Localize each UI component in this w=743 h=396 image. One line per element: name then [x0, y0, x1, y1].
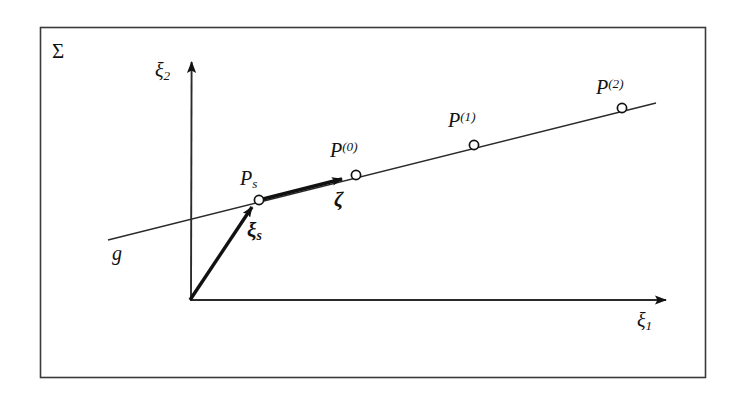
vector-label-xi-s-subscript: s [256, 228, 261, 243]
vector-label-xi-s: ξs [247, 220, 262, 241]
axis-y-label-symbol: ξ [155, 59, 164, 81]
point-label-p1-superscript: (1) [460, 109, 475, 124]
axis-y-label-subscript: 2 [164, 68, 171, 83]
vector-zeta [259, 179, 342, 200]
figure-vector-graphics [0, 0, 743, 396]
axis-x-label: ξ1 [637, 310, 652, 330]
axis-x-label-subscript: 1 [646, 318, 653, 333]
vector-xi-s [190, 207, 252, 300]
line-label-g: g [112, 243, 122, 263]
axis-x-label-symbol: ξ [637, 309, 646, 331]
point-label-ps-symbol: P [240, 167, 252, 189]
figure-canvas: Σ ξ2 ξ1 g Ps P(0) P(1) P(2) ξs ζ [0, 0, 743, 396]
point-label-p0-symbol: P [330, 139, 342, 161]
point-marker-p2 [617, 103, 626, 112]
point-label-p1: P(1) [448, 110, 476, 130]
axis-y-line [191, 62, 192, 300]
point-label-p2-superscript: (2) [608, 76, 623, 91]
axis-y-label: ξ2 [155, 60, 170, 80]
point-label-p0: P(0) [330, 140, 358, 160]
point-label-p1-symbol: P [448, 109, 460, 131]
point-label-ps: Ps [240, 168, 257, 188]
point-label-p2-symbol: P [596, 76, 608, 98]
point-marker-p0 [351, 170, 360, 179]
point-label-ps-subscript: s [252, 176, 257, 191]
point-marker-p1 [469, 140, 478, 149]
point-marker-ps [254, 195, 263, 204]
line-g [108, 103, 656, 240]
point-label-p0-superscript: (0) [342, 139, 357, 154]
vector-label-zeta: ζ [334, 189, 343, 210]
domain-label-sigma: Σ [52, 41, 64, 62]
point-label-p2: P(2) [596, 77, 624, 97]
